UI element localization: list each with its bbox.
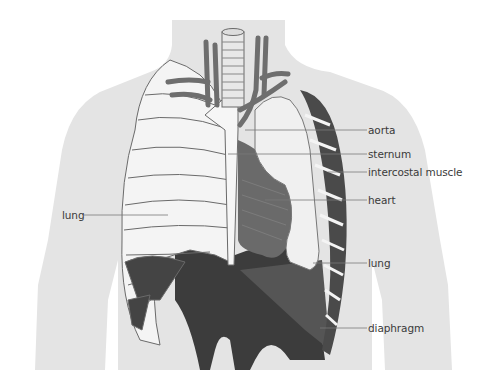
label-aorta: aorta bbox=[368, 124, 395, 136]
label-intercostal-muscle: intercostal muscle bbox=[368, 166, 462, 178]
label-sternum: sternum bbox=[368, 148, 411, 160]
label-lung-left: lung bbox=[62, 209, 85, 221]
thorax-diagram: aorta sternum intercostal muscle heart l… bbox=[0, 0, 479, 385]
label-heart: heart bbox=[368, 194, 395, 206]
label-lung-right: lung bbox=[368, 257, 391, 269]
label-diaphragm: diaphragm bbox=[368, 322, 424, 334]
trachea-shape bbox=[222, 29, 244, 108]
